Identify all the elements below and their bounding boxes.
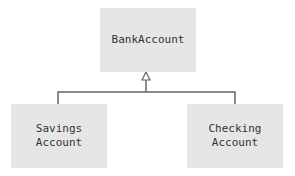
checking-account-label: Checking Account bbox=[209, 122, 262, 150]
bank-account-label: BankAccount bbox=[112, 33, 185, 47]
savings-account-label: Savings Account bbox=[36, 122, 82, 150]
checking-account-class-box: Checking Account bbox=[187, 104, 283, 168]
bank-account-class-box: BankAccount bbox=[100, 8, 196, 72]
savings-account-class-box: Savings Account bbox=[11, 104, 107, 168]
generalization-arrow-icon bbox=[142, 72, 150, 80]
